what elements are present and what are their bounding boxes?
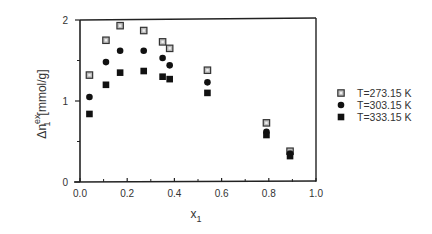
top-frame-line — [80, 18, 316, 20]
data-point — [159, 55, 166, 62]
x-tick-label: 0.8 — [262, 188, 276, 199]
data-point — [140, 47, 147, 54]
y-tick-label: 0 — [62, 177, 68, 188]
legend-label: T=273.15 K — [357, 87, 412, 99]
x-axis-title: x1 — [190, 207, 201, 224]
axis-titles: x1 Δnex1[mmol/g] — [32, 69, 202, 224]
data-point — [103, 82, 110, 89]
data-point — [140, 68, 147, 75]
legend: T=273.15 KT=303.15 KT=333.15 K — [338, 87, 412, 123]
y-tick-label: 2 — [62, 15, 68, 26]
data-point — [103, 59, 110, 66]
legend-label: T=303.15 K — [357, 99, 412, 111]
legend-marker-icon — [338, 114, 345, 121]
x-tick-label: 1.0 — [309, 188, 323, 199]
data-points — [86, 22, 293, 159]
x-tick-label: 0.6 — [215, 188, 229, 199]
data-point — [166, 62, 173, 69]
data-point — [166, 76, 173, 83]
data-point — [86, 94, 93, 101]
y-tick-label: 1 — [62, 96, 68, 107]
scatter-chart: 0.00.20.40.60.81.0012 T=273.15 KT=303.15… — [0, 0, 432, 234]
data-point — [117, 69, 124, 76]
data-point — [287, 153, 294, 160]
data-point — [86, 111, 93, 118]
data-point — [117, 47, 124, 54]
svg-text:Δnex1[mmol/g]: Δnex1[mmol/g] — [32, 69, 52, 138]
data-point — [204, 79, 211, 86]
y-axis-title: Δnex1[mmol/g] — [32, 69, 52, 138]
data-point — [159, 73, 166, 80]
x-tick-label: 0.2 — [120, 188, 134, 199]
legend-marker-icon — [338, 102, 345, 109]
x-tick-label: 0.4 — [167, 188, 181, 199]
legend-label: T=333.15 K — [357, 111, 412, 123]
data-point — [263, 132, 270, 139]
x-axis-line — [74, 181, 316, 182]
plot-axes: 0.00.20.40.60.81.0012 — [62, 15, 323, 199]
x-tick-label: 0.0 — [73, 188, 87, 199]
data-point — [204, 90, 211, 97]
